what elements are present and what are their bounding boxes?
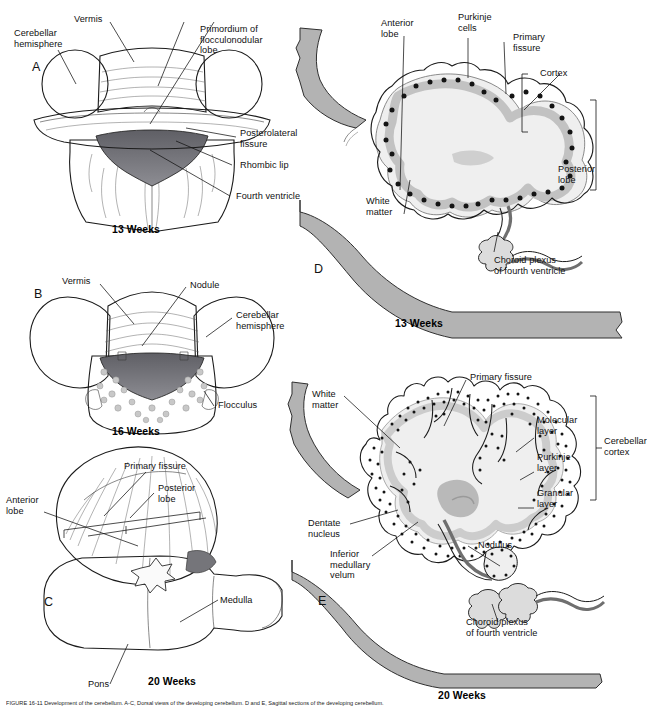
label-d-posterior-lobe: Posterior lobe [558,164,595,185]
label-e-inferior-medullary-velum: Inferior medullary velum [330,549,370,581]
label-c-anterior-lobe: Anterior lobe [6,495,39,516]
panel-c-artwork [44,447,282,650]
label-d-primary-fissure: Primary fissure [513,32,545,53]
panel-b-age: 16 Weeks [112,426,160,437]
label-c-medulla: Medulla [220,595,253,606]
panel-a-age: 13 Weeks [112,224,160,235]
label-e-white-matter: White matter [312,389,338,410]
panel-letter-d: D [314,262,323,276]
panel-letter-a: A [32,60,40,74]
label-d-anterior-lobe: Anterior lobe [381,18,414,39]
label-b-nodule: Nodule [190,280,219,291]
panel-c-age: 20 Weeks [148,676,196,687]
label-e-purkinje-layer: Purkinje layer [537,452,571,473]
label-e-cerebellar-cortex: Cerebellar cortex [604,436,647,457]
panel-letter-e: E [318,594,326,608]
label-a-posterolateral-fissure: Posterolateral fissure [240,128,297,149]
label-c-pons: Pons [88,679,109,690]
panel-a-artwork [34,48,270,232]
label-e-granular-layer: Granular layer [537,488,573,509]
label-c-posterior-lobe: Posterior lobe [158,483,195,504]
label-c-primary-fissure: Primary fissure [124,461,186,472]
label-d-choroid-plexus: Choroid plexus of fourth ventricle [494,255,565,276]
label-e-molecular-layer: Molecular layer [537,415,577,436]
label-b-flocculus: Flocculus [218,400,257,411]
label-d-white-matter: White matter [366,196,392,217]
panel-letter-c: C [44,595,53,609]
label-a-cerebellar-hemisphere: Cerebellar hemisphere [14,28,63,49]
label-e-primary-fissure: Primary fissure [470,372,532,383]
label-a-rhombic-lip: Rhombic lip [240,160,289,171]
panel-letter-b: B [34,287,42,301]
figure-caption: FIGURE 16-11 Development of the cerebell… [6,700,640,709]
label-b-cerebellar-hemisphere: Cerebellar hemisphere [236,310,285,331]
label-a-vermis: Vermis [74,14,102,25]
panel-d-age: 13 Weeks [395,318,443,329]
label-d-purkinje-cells: Purkinje cells [458,12,492,33]
label-e-nodulus: Nodulus [478,540,512,551]
label-d-cortex: Cortex [540,68,567,79]
label-b-vermis: Vermis [62,276,90,287]
label-e-choroid-plexus: Choroid plexus of fourth ventricle [466,617,537,638]
label-e-dentate-nucleus: Dentate nucleus [308,518,341,539]
label-a-fourth-ventricle: Fourth ventricle [236,191,300,202]
label-a-primordium-flocculonodular-lobe: Primordium of flocculonodular lobe [200,24,263,56]
